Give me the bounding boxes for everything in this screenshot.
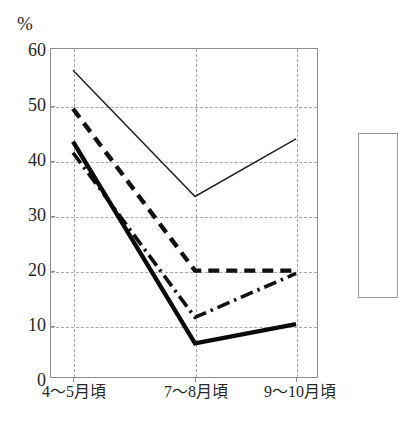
xtick-label-jul-aug: 7〜8月頃 <box>140 383 252 401</box>
ytick-label-10: 10 <box>12 316 46 334</box>
ytick-mark-10 <box>50 326 55 327</box>
xtick-label-apr-may: 4〜5月頃 <box>18 383 130 401</box>
gridline-h-10 <box>51 327 317 328</box>
gridline-h-40 <box>51 162 317 163</box>
xtick-label-sep-oct: 9〜10月頃 <box>244 383 356 401</box>
gridline-v-cat-1 <box>74 49 75 377</box>
plot-area <box>50 48 318 378</box>
ytick-label-50: 50 <box>12 96 46 114</box>
ytick-mark-40 <box>50 161 55 162</box>
xtick-mark-1 <box>73 378 74 382</box>
gridline-v-cat-3 <box>297 49 298 377</box>
ytick-mark-30 <box>50 216 55 217</box>
ytick-label-30: 30 <box>12 206 46 224</box>
gridline-h-30 <box>51 217 317 218</box>
y-axis-unit-label: % <box>17 14 33 33</box>
ytick-mark-20 <box>50 271 55 272</box>
gridline-v-cat-2 <box>196 49 197 377</box>
ytick-label-40: 40 <box>12 151 46 169</box>
ytick-label-20: 20 <box>12 261 46 279</box>
gridline-h-20 <box>51 272 317 273</box>
xtick-mark-3 <box>296 378 297 382</box>
ytick-label-60: 60 <box>12 41 46 59</box>
gridline-h-50 <box>51 107 317 108</box>
xtick-mark-2 <box>195 378 196 382</box>
ytick-mark-50 <box>50 106 55 107</box>
legend-box <box>358 133 398 298</box>
